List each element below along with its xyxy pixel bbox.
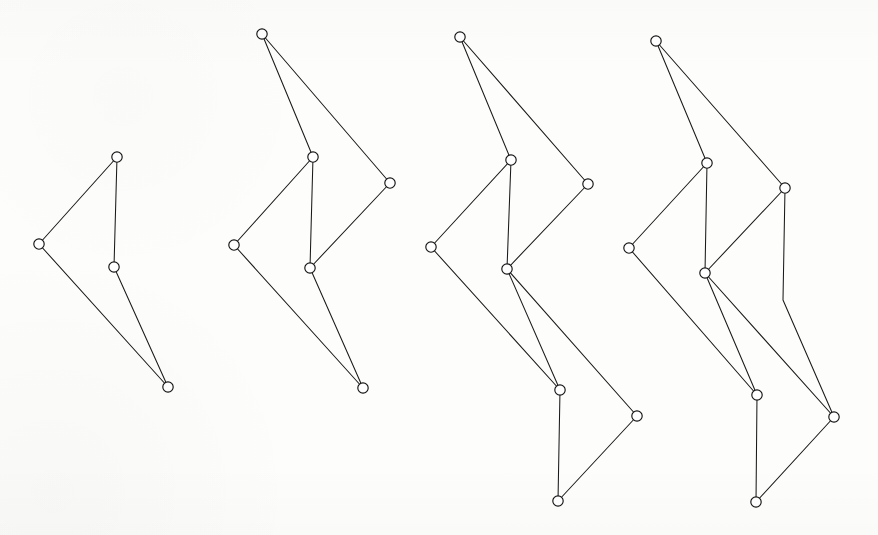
graph-1-edges [39,157,168,387]
graph-node [308,152,318,162]
graph-node [229,240,239,250]
graph-node [163,382,173,392]
graph-node [257,29,267,39]
graph-node [553,496,563,506]
graph-3 [426,32,642,506]
graph-node [651,36,661,46]
graph-edge [558,390,560,501]
graph-node [555,385,565,395]
graph-edge [705,163,707,273]
graph-node [702,158,712,168]
graph-edge [507,269,637,416]
graph-edge [756,417,834,502]
graph-edge [460,37,588,184]
graph-figure-svg [0,0,878,535]
graph-node [752,390,762,400]
graph-edge [705,273,834,417]
graph-3-edges [431,37,637,501]
graph-node [112,152,122,162]
graph-node [829,412,839,422]
graph-edge [507,184,588,269]
graph-node [305,263,315,273]
graph-edge [656,41,785,188]
graph-node [780,183,790,193]
graph-node [502,264,512,274]
graph-edge [114,267,168,387]
graph-edge [234,157,313,245]
graph-edge [629,248,757,395]
graph-2 [229,29,395,393]
graph-node [632,411,642,421]
graph-edge [705,188,785,273]
graph-edge [629,163,707,248]
graph-node [385,178,395,188]
graph-edge [114,157,117,267]
graph-edge [431,160,511,247]
graph-node [700,268,710,278]
graph-4-edges [629,41,834,502]
graph-edge [310,157,313,268]
graph-edge [39,157,117,244]
graph-node [751,497,761,507]
graph-2-edges [234,34,390,388]
graph-edge [558,416,637,501]
graph-4 [624,36,839,507]
graph-node [426,242,436,252]
graph-4-nodes [624,36,839,507]
graph-node [624,243,634,253]
graph-edge [262,34,313,157]
graph-node [455,32,465,42]
graph-edge [262,34,390,183]
graph-edge [656,41,707,163]
graph-3-nodes [426,32,642,506]
graph-edge [310,268,363,388]
graph-edge [310,183,390,268]
graph-node [109,262,119,272]
graph-edge [39,244,168,387]
graph-edge [507,160,511,269]
graph-1-nodes [34,152,173,392]
graph-edge [783,188,834,417]
graph-node [34,239,44,249]
graph-edge [507,269,560,390]
graph-1 [34,152,173,392]
graph-edge [756,395,757,502]
graph-edge [460,37,511,160]
graph-edge [234,245,363,388]
graph-node [358,383,368,393]
graph-edge [705,273,757,395]
graph-node [583,179,593,189]
figure-canvas [0,0,878,535]
graph-node [506,155,516,165]
graph-edge [431,247,560,390]
